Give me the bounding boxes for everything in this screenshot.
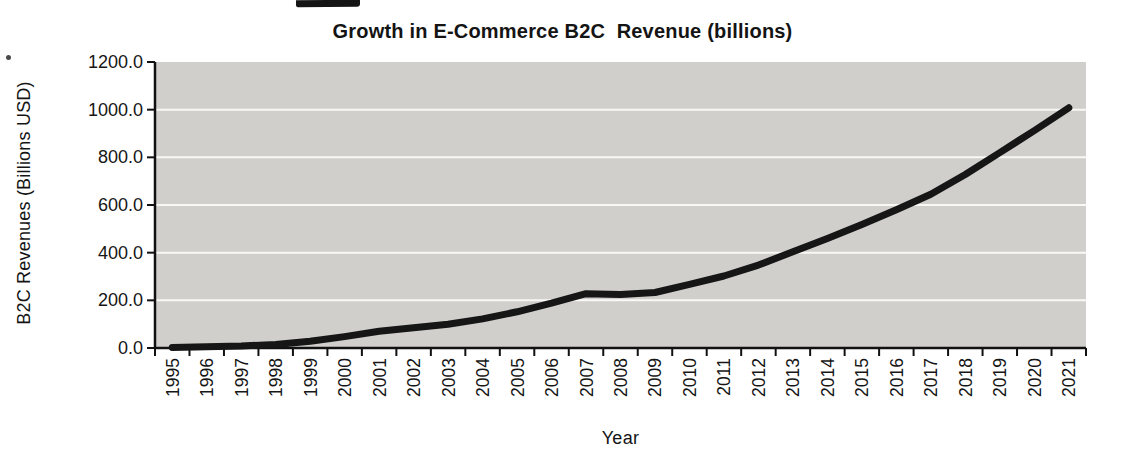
x-tick-label: 2017 bbox=[921, 358, 941, 397]
x-tick-label: 2014 bbox=[818, 358, 838, 397]
x-tick-label: 2016 bbox=[887, 358, 907, 397]
y-tick-label: 1200.0 bbox=[88, 52, 143, 72]
x-tick-label: 2015 bbox=[852, 358, 872, 397]
x-tick-label: 1996 bbox=[197, 358, 217, 397]
x-tick-label: 2008 bbox=[611, 358, 631, 397]
x-tick-label: 2013 bbox=[783, 358, 803, 397]
x-tick-label: 2019 bbox=[990, 358, 1010, 397]
x-tick-label: 2020 bbox=[1025, 358, 1045, 397]
x-tick-label: 2000 bbox=[335, 358, 355, 397]
x-tick-label: 2001 bbox=[370, 358, 390, 397]
y-tick-label: 0.0 bbox=[118, 338, 143, 358]
plot-area: 0.0200.0400.0600.0800.01000.01200.019951… bbox=[0, 0, 1125, 463]
x-tick-label: 1999 bbox=[301, 358, 321, 397]
x-tick-label: 1998 bbox=[266, 358, 286, 397]
x-tick-label: 2010 bbox=[680, 358, 700, 397]
x-tick-label: 2021 bbox=[1059, 358, 1079, 397]
x-tick-label: 2007 bbox=[577, 358, 597, 397]
x-tick-label: 2018 bbox=[956, 358, 976, 397]
x-tick-label: 2005 bbox=[508, 358, 528, 397]
x-tick-label: 2009 bbox=[645, 358, 665, 397]
y-tick-label: 1000.0 bbox=[88, 100, 143, 120]
y-tick-label: 400.0 bbox=[98, 243, 143, 263]
y-tick-label: 600.0 bbox=[98, 195, 143, 215]
x-tick-label: 2006 bbox=[542, 358, 562, 397]
x-tick-label: 1995 bbox=[163, 358, 183, 397]
y-tick-label: 200.0 bbox=[98, 290, 143, 310]
y-tick-label: 800.0 bbox=[98, 147, 143, 167]
x-tick-label: 2003 bbox=[439, 358, 459, 397]
x-tick-label: 2011 bbox=[714, 358, 734, 396]
line-chart: Growth in E-Commerce B2C Revenue (billio… bbox=[0, 0, 1125, 463]
x-tick-label: 2004 bbox=[473, 358, 493, 397]
x-tick-label: 2002 bbox=[404, 358, 424, 397]
x-tick-label: 2012 bbox=[749, 358, 769, 397]
x-tick-label: 1997 bbox=[232, 358, 252, 397]
